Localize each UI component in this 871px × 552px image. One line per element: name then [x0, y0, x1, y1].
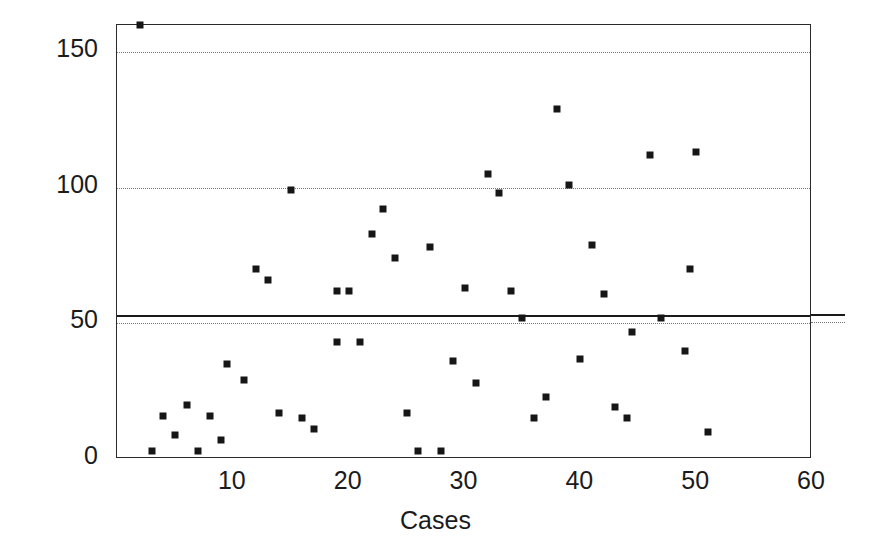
data-point: [415, 447, 422, 454]
data-point: [137, 22, 144, 29]
data-point: [264, 276, 271, 283]
x-tick-label-30: 30: [424, 466, 504, 495]
data-point: [565, 182, 572, 189]
data-point: [554, 106, 561, 113]
data-point: [681, 347, 688, 354]
data-point: [287, 187, 294, 194]
scatter-plot-figure: Minutes 050100150 102030405060 Cases 21 …: [0, 0, 871, 552]
x-tick-label-50: 50: [655, 466, 735, 495]
data-point: [646, 152, 653, 159]
data-point: [299, 415, 306, 422]
data-point: [403, 409, 410, 416]
data-point: [426, 244, 433, 251]
data-point: [531, 415, 538, 422]
data-point: [148, 447, 155, 454]
data-point: [577, 355, 584, 362]
data-point: [658, 314, 665, 321]
data-point: [484, 171, 491, 178]
data-point: [687, 266, 694, 273]
gridline-y-150: [117, 52, 810, 53]
data-point: [310, 426, 317, 433]
y-tick-label-50: 50: [0, 305, 98, 334]
reference-line-extension-1: [811, 322, 845, 323]
y-tick-label-0: 0: [0, 441, 98, 470]
reference-line-30-abl: [117, 323, 810, 324]
data-point: [345, 287, 352, 294]
plot-area: [116, 24, 811, 458]
x-tick-label-40: 40: [539, 466, 619, 495]
data-point: [392, 255, 399, 262]
data-point: [195, 447, 202, 454]
data-point: [623, 415, 630, 422]
data-point: [183, 401, 190, 408]
reference-line-21-abl: [117, 315, 810, 317]
y-tick-label-150: 150: [0, 34, 98, 63]
data-point: [253, 266, 260, 273]
data-point: [461, 285, 468, 292]
data-point: [473, 380, 480, 387]
x-tick-label-60: 60: [771, 466, 851, 495]
data-point: [542, 393, 549, 400]
data-point: [600, 290, 607, 297]
data-point: [224, 361, 231, 368]
reference-line-extension-0: [811, 314, 845, 316]
data-point: [612, 404, 619, 411]
data-point: [704, 428, 711, 435]
data-point: [206, 412, 213, 419]
data-point: [496, 190, 503, 197]
data-point: [693, 149, 700, 156]
data-point: [368, 230, 375, 237]
data-point: [357, 339, 364, 346]
x-tick-label-20: 20: [308, 466, 388, 495]
data-point: [218, 437, 225, 444]
data-point: [380, 206, 387, 213]
data-point: [160, 412, 167, 419]
data-point: [438, 447, 445, 454]
gridline-y-100: [117, 188, 810, 189]
data-point: [276, 409, 283, 416]
data-point: [334, 287, 341, 294]
data-point: [588, 241, 595, 248]
data-point: [334, 339, 341, 346]
data-point: [629, 328, 636, 335]
data-point: [519, 314, 526, 321]
data-point: [241, 377, 248, 384]
data-point: [507, 287, 514, 294]
x-axis-title-text: Cases: [400, 506, 471, 534]
data-point: [171, 431, 178, 438]
data-point: [449, 358, 456, 365]
x-axis-title: Cases: [0, 506, 871, 535]
x-tick-label-10: 10: [192, 466, 272, 495]
y-tick-label-100: 100: [0, 170, 98, 199]
